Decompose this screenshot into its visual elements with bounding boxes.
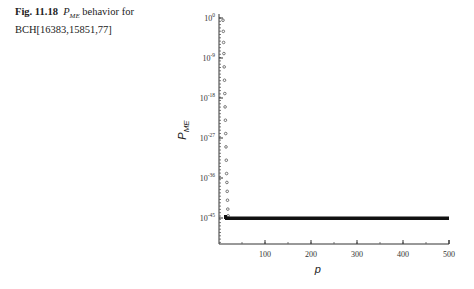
data-point <box>225 146 228 149</box>
x-tick-label: 300 <box>351 250 363 259</box>
data-point <box>224 119 227 122</box>
y-tick-label: 10-36 <box>200 172 216 183</box>
plateau-series <box>225 217 449 221</box>
data-point <box>222 41 225 44</box>
chart: 10010-910-1810-2710-3610-451002003004005… <box>0 0 474 289</box>
x-tick-label: 200 <box>305 250 317 259</box>
data-point <box>224 106 227 109</box>
data-point <box>226 181 229 184</box>
y-tick-label: 10-18 <box>200 92 216 103</box>
x-axis-title: p <box>314 263 321 275</box>
data-point <box>223 52 226 55</box>
y-axis-title: PME <box>176 120 191 140</box>
x-tick-label: 400 <box>397 250 409 259</box>
x-tick-label: 500 <box>443 250 455 259</box>
data-point <box>222 30 225 33</box>
x-tick-label: 100 <box>259 250 271 259</box>
y-tick-label: 10-9 <box>202 52 215 63</box>
data-point <box>223 66 226 69</box>
data-point <box>226 190 229 193</box>
plateau-start-point <box>224 215 227 219</box>
data-point <box>225 159 228 162</box>
y-tick-label: 10-45 <box>200 212 216 223</box>
data-point <box>222 19 225 22</box>
data-point <box>226 199 229 202</box>
data-point <box>225 172 228 175</box>
data-point <box>227 208 230 211</box>
y-tick-label: 10-27 <box>200 132 216 143</box>
data-point <box>223 79 226 82</box>
y-tick-label: 100 <box>204 12 215 23</box>
data-point <box>224 132 227 135</box>
data-point <box>224 92 227 95</box>
